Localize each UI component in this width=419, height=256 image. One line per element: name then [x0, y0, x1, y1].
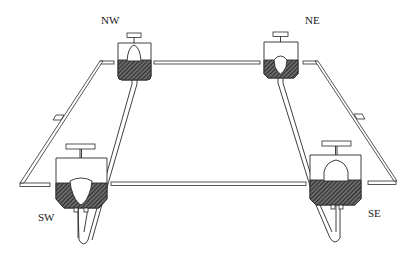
ne-label: NE	[305, 14, 320, 26]
level-gauge-diagram: NW NE SW SE	[0, 0, 419, 256]
nw-liquid	[118, 60, 151, 80]
top-rail	[154, 61, 260, 64]
se-label: SE	[368, 207, 381, 219]
se-cap-icon	[322, 141, 351, 146]
tubes	[78, 78, 340, 244]
sw-cap-icon	[66, 144, 95, 149]
bottom-right-stub	[368, 181, 396, 185]
nw-cap-icon	[127, 33, 141, 38]
bottom-rail	[111, 182, 306, 186]
ne-cap-icon	[273, 32, 288, 37]
station-ne: NE	[264, 14, 320, 78]
sw-label: SW	[38, 211, 55, 223]
bottom-left-stub	[20, 183, 50, 187]
se-liquid	[310, 180, 361, 205]
station-nw: NW	[101, 14, 151, 80]
nw-label: NW	[101, 14, 120, 26]
